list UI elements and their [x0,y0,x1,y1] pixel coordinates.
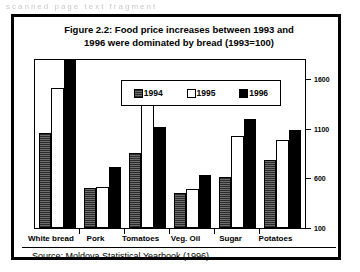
bar [289,130,301,228]
bar [141,97,153,228]
legend-label-1996: 1996 [249,89,268,98]
bar-group [84,167,121,228]
x-axis-category-label: Tomatoes [118,233,163,245]
plot-area: 1994 1995 1996 [35,60,305,228]
bar [244,119,256,228]
bar [39,133,51,228]
bar-group [174,175,211,228]
bar [199,175,211,228]
bar-group [39,59,76,228]
page-scan-artifact: scanned page text fragment [0,0,360,14]
source-note: Source: Moldova Statistical Yearbook (19… [32,250,212,263]
figure-title: Figure 2.2: Food price increases between… [22,23,336,49]
legend-swatch-icon-1994 [134,89,143,98]
page-artifact-text: scanned page text fragment [0,0,360,13]
y-axis: 10060011001600 [306,59,354,230]
bar-group [219,119,256,228]
bar [231,136,243,228]
bar [154,127,166,228]
bar [51,88,63,228]
bar [129,153,141,228]
bar [109,167,121,228]
legend-swatch-icon-1996 [239,89,248,98]
bar [219,177,231,228]
plot-frame: 1994 1995 1996 [34,59,306,229]
x-axis-labels: White breadPorkTomatoesVeg. OilSugarPota… [28,233,318,247]
chart-legend: 1994 1995 1996 [121,80,281,106]
y-tick-mark [306,228,311,229]
x-axis-category-label: Veg. Oil [163,233,208,245]
bar [84,188,96,228]
x-axis-category-label: Potatoes [253,233,298,245]
bar-group [264,130,301,228]
x-axis-category-label: Pork [73,233,118,245]
x-axis-category-label: Sugar [208,233,253,245]
bar-group [129,97,166,228]
legend-label-1995: 1995 [197,89,216,98]
bar [64,59,76,228]
y-tick-label: 100 [314,225,326,232]
figure-title-line-2: 1996 were dominated by bread (1993=100) [22,36,336,49]
x-axis-category-label: White bread [28,233,73,245]
y-tick-mark [306,129,311,130]
bar [174,193,186,228]
bar [96,187,108,228]
figure-container: Figure 2.2: Food price increases between… [11,14,341,260]
legend-swatch-icon-1995 [187,89,196,98]
bar [276,140,288,228]
y-tick-mark [306,79,311,80]
legend-label-1994: 1994 [144,89,163,98]
source-divider [22,247,336,248]
bar [264,160,276,228]
y-tick-label: 600 [314,175,326,182]
bar [186,189,198,228]
legend-item-1994: 1994 [134,89,163,98]
y-tick-mark [306,178,311,179]
y-tick-label: 1100 [314,126,329,133]
legend-item-1995: 1995 [187,89,216,98]
legend-item-1996: 1996 [239,89,268,98]
y-tick-label: 1600 [314,76,330,83]
figure-title-line-1: Figure 2.2: Food price increases between… [22,23,336,36]
